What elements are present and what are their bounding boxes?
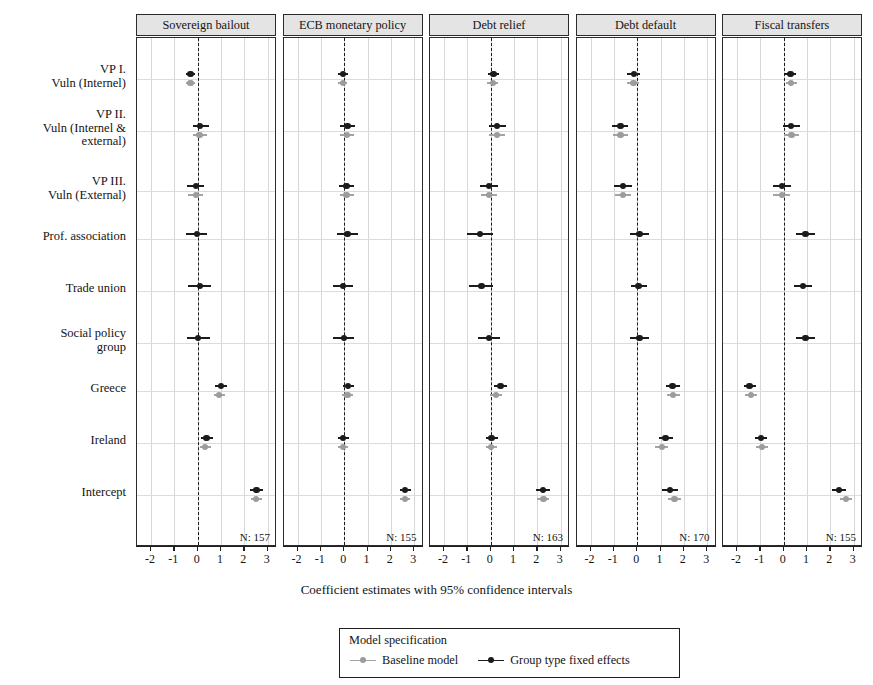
- x-axis-tick-label: 0: [780, 552, 786, 567]
- x-axis-tick-label: 0: [633, 552, 639, 567]
- x-axis-tick-label: 1: [657, 552, 663, 567]
- zero-reference-line: [637, 38, 638, 545]
- x-axis-tick: [683, 546, 684, 551]
- point-estimate-dot: [494, 123, 500, 129]
- vertical-gridline: [414, 38, 415, 545]
- x-axis-tick: [267, 546, 268, 551]
- panel-title: Fiscal transfers: [755, 18, 830, 33]
- point-estimate-dot: [843, 496, 849, 502]
- horizontal-gridline: [137, 131, 275, 132]
- x-axis-tick-label: -1: [461, 552, 471, 567]
- x-axis-tick-label: 2: [680, 552, 686, 567]
- facet-panel: Debt reliefN: 163: [429, 14, 569, 546]
- panel-title: ECB monetary policy: [299, 18, 406, 33]
- facet-panel: Sovereign bailoutN: 157: [136, 14, 276, 546]
- point-estimate-dot: [197, 123, 203, 129]
- x-axis-tick-label: -1: [315, 552, 325, 567]
- facet-panel: ECB monetary policyN: 155: [283, 14, 423, 546]
- vertical-gridline: [561, 38, 562, 545]
- vertical-gridline: [854, 38, 855, 545]
- sample-size-label: N: 157: [240, 531, 270, 543]
- horizontal-gridline: [137, 191, 275, 192]
- x-axis-tick-label: -2: [585, 552, 595, 567]
- x-axis-tick-label: 0: [194, 552, 200, 567]
- x-axis-tick-label: -2: [438, 552, 448, 567]
- point-estimate-dot: [341, 335, 347, 341]
- point-estimate-dot: [636, 335, 642, 341]
- panel-plot-area: N: 163: [429, 37, 569, 546]
- x-axis-tick: [466, 546, 467, 551]
- point-estimate-dot: [635, 283, 641, 289]
- point-estimate-dot: [490, 80, 496, 86]
- point-estimate-dot: [759, 444, 765, 450]
- point-estimate-dot: [195, 335, 201, 341]
- point-estimate-dot: [540, 487, 546, 493]
- horizontal-gridline: [284, 79, 422, 80]
- x-axis-tick: [297, 546, 298, 551]
- x-axis-tick-label: -2: [145, 552, 155, 567]
- legend-item[interactable]: Group type fixed effects: [478, 653, 630, 668]
- x-axis-tick: [343, 546, 344, 551]
- point-estimate-dot: [344, 392, 350, 398]
- axis-line: [576, 546, 716, 547]
- horizontal-gridline: [137, 343, 275, 344]
- vertical-gridline: [298, 38, 299, 545]
- point-estimate-dot: [659, 444, 665, 450]
- x-axis-tick-label: -1: [754, 552, 764, 567]
- point-estimate-dot: [746, 383, 752, 389]
- sample-size-label: N: 163: [533, 531, 563, 543]
- x-axis-tick: [490, 546, 491, 551]
- horizontal-gridline: [430, 291, 568, 292]
- horizontal-gridline: [430, 191, 568, 192]
- y-axis-label: Greece: [91, 382, 126, 396]
- point-estimate-dot: [670, 392, 676, 398]
- vertical-gridline: [614, 38, 615, 545]
- x-axis: -2-10123: [283, 546, 423, 576]
- point-estimate-dot: [340, 71, 346, 77]
- vertical-gridline: [830, 38, 831, 545]
- horizontal-gridline: [723, 391, 861, 392]
- facet-panel-row: Sovereign bailoutN: 157ECB monetary poli…: [136, 14, 869, 546]
- vertical-gridline: [391, 38, 392, 545]
- horizontal-gridline: [284, 443, 422, 444]
- panel-plot-area: N: 170: [576, 37, 716, 546]
- horizontal-gridline: [577, 191, 715, 192]
- sample-size-label: N: 155: [826, 531, 856, 543]
- vertical-gridline: [221, 38, 222, 545]
- axis-line: [429, 546, 569, 547]
- vertical-gridline: [737, 38, 738, 545]
- legend-title: Model specification: [349, 633, 671, 648]
- x-axis-tick: [413, 546, 414, 551]
- point-estimate-dot: [343, 183, 349, 189]
- x-axis-tick: [829, 546, 830, 551]
- legend-key-dot: [360, 657, 366, 663]
- x-axis-tick-label: 3: [850, 552, 856, 567]
- point-estimate-dot: [497, 383, 503, 389]
- x-axis-tick: [150, 546, 151, 551]
- horizontal-gridline: [577, 79, 715, 80]
- x-axis-tick-label: 3: [703, 552, 709, 567]
- horizontal-gridline: [723, 291, 861, 292]
- y-axis-label: Ireland: [91, 434, 126, 448]
- horizontal-gridline: [577, 443, 715, 444]
- vertical-gridline: [514, 38, 515, 545]
- legend-item[interactable]: Baseline model: [350, 653, 458, 668]
- point-estimate-dot: [617, 123, 623, 129]
- point-estimate-dot: [203, 435, 209, 441]
- horizontal-gridline: [430, 343, 568, 344]
- panel-plot-area: N: 155: [283, 37, 423, 546]
- point-estimate-dot: [758, 435, 764, 441]
- x-axis-tick-label: -1: [608, 552, 618, 567]
- zero-reference-line: [198, 38, 199, 545]
- y-axis-label: VP I. Vuln (Internel): [51, 63, 126, 90]
- point-estimate-dot: [493, 392, 499, 398]
- x-axis: -2-10123: [722, 546, 862, 576]
- point-estimate-dot: [344, 132, 350, 138]
- point-estimate-dot: [662, 435, 668, 441]
- y-axis-term-labels: VP I. Vuln (Internel)VP II. Vuln (Intern…: [0, 0, 134, 546]
- point-estimate-dot: [669, 383, 675, 389]
- point-estimate-dot: [253, 496, 259, 502]
- y-axis-label: VP III. Vuln (External): [48, 175, 126, 202]
- x-axis-tick-label: 1: [217, 552, 223, 567]
- panel-title: Sovereign bailout: [162, 18, 249, 33]
